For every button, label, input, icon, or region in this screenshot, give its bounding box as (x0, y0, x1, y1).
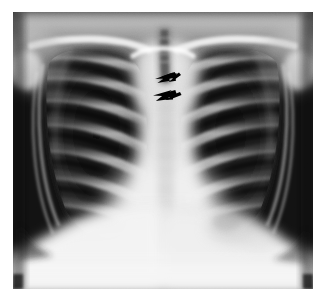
chest-radiograph-image (13, 12, 313, 289)
film-grain (13, 12, 313, 289)
radiograph-canvas (13, 12, 313, 289)
screenshot-root (0, 0, 324, 299)
film-body (13, 12, 313, 289)
